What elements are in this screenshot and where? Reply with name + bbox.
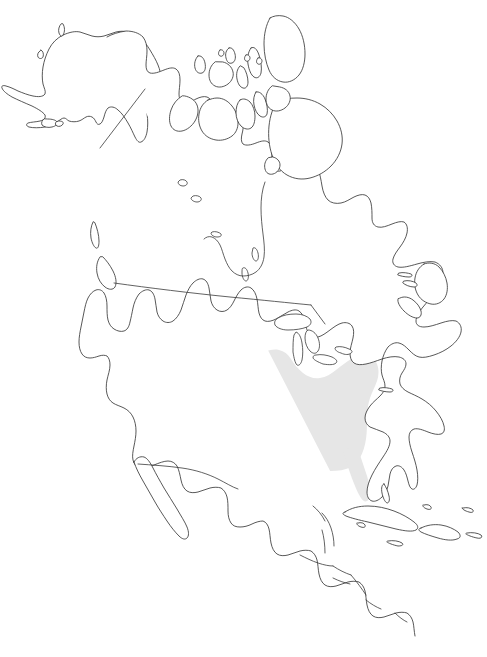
island-aleutian-islet-a bbox=[55, 121, 63, 126]
island-bahamas-andros bbox=[423, 505, 432, 510]
lake-erie bbox=[313, 355, 337, 365]
island-prince-patrick bbox=[195, 56, 206, 73]
island-bathurst bbox=[237, 66, 248, 88]
coastline-layer bbox=[2, 16, 482, 636]
island-puerto-rico bbox=[466, 533, 482, 539]
island-melville bbox=[209, 62, 233, 87]
north-america-map-svg bbox=[0, 0, 487, 657]
range-map-figure: Central and eastern United States, exten… bbox=[0, 0, 487, 657]
island-long-island bbox=[379, 388, 393, 392]
lake-ontario bbox=[335, 347, 352, 355]
island-haida-gwaii bbox=[91, 222, 99, 248]
island-ellesmere bbox=[264, 16, 305, 83]
island-somerset bbox=[254, 92, 268, 117]
island-pribilof-islet bbox=[38, 50, 44, 59]
island-victoria bbox=[199, 98, 238, 140]
lake-great-bear bbox=[178, 180, 187, 186]
species-range-florida-lobe bbox=[343, 448, 370, 502]
island-st-lawrence bbox=[59, 24, 65, 36]
island-bahamas-great-abaco bbox=[382, 484, 390, 503]
island-arctic-islet-c bbox=[219, 50, 225, 57]
island-jamaica bbox=[387, 541, 403, 546]
island-lesser-antilles-islet bbox=[462, 508, 473, 513]
island-hispaniola bbox=[419, 525, 460, 540]
island-kodiak bbox=[42, 119, 58, 127]
island-arctic-islet-b bbox=[257, 58, 263, 65]
lake-michigan bbox=[293, 332, 303, 365]
island-vancouver bbox=[97, 257, 116, 289]
island-ellef-ringnes bbox=[226, 48, 236, 63]
island-arctic-islet-a bbox=[245, 55, 251, 62]
